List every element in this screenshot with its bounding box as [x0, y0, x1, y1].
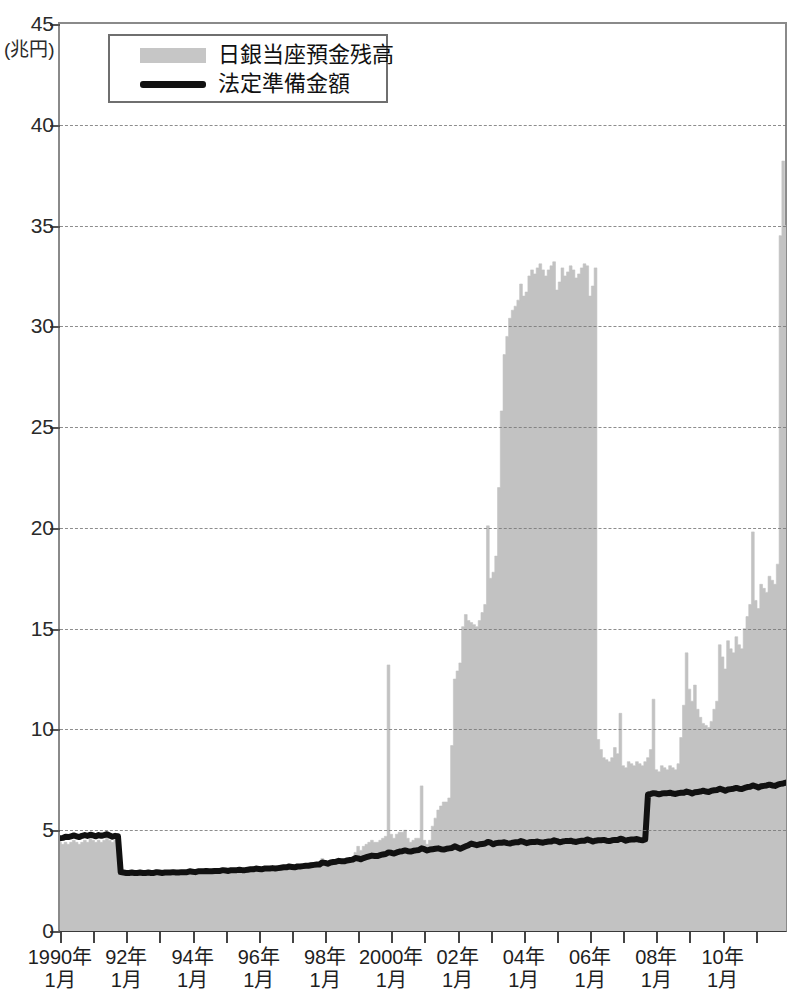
x-tick-mark [226, 932, 228, 943]
x-tick-label: 98年1月 [304, 946, 346, 992]
x-tick-label: 08年1月 [635, 946, 677, 992]
x-tick-mark [60, 932, 62, 943]
gridline [60, 125, 786, 126]
x-tick-mark [358, 932, 360, 943]
y-tick-label: 25 [8, 416, 54, 437]
chart-root: (兆円) 051015202530354045 1990年1月92年1月94年1… [0, 0, 792, 1005]
x-tick-mark [756, 932, 758, 943]
gridline [60, 729, 786, 730]
x-tick-mark [325, 932, 327, 943]
y-tick-label: 0 [8, 920, 54, 941]
legend-item-required-reserves: 法定準備金額 [120, 72, 350, 96]
gridline [60, 528, 786, 529]
gridline [60, 629, 786, 630]
legend-bar-swatch-icon [140, 48, 206, 63]
gridline [60, 427, 786, 428]
x-tick-mark [656, 932, 658, 943]
y-axis-unit-label: (兆円) [4, 34, 55, 61]
x-tick-mark [126, 932, 128, 943]
x-tick-label: 92年1月 [105, 946, 147, 992]
x-tick-label: 06年1月 [569, 946, 611, 992]
y-tick-label: 40 [8, 114, 54, 135]
gridline [60, 326, 786, 327]
x-tick-mark [458, 932, 460, 943]
x-tick-mark [424, 932, 426, 943]
x-tick-label: 02年1月 [436, 946, 478, 992]
x-tick-mark [259, 932, 261, 943]
series-line-svg [60, 24, 786, 931]
x-tick-label: 04年1月 [503, 946, 545, 992]
x-tick-mark [623, 932, 625, 943]
legend-item-deposits: 日銀当座預金残高 [120, 43, 394, 67]
y-tick-label: 20 [8, 517, 54, 538]
x-tick-label: 96年1月 [238, 946, 280, 992]
gridline [60, 226, 786, 227]
x-tick-mark [491, 932, 493, 943]
legend-line-swatch-icon [140, 81, 206, 88]
x-tick-mark [193, 932, 195, 943]
legend-label-required-reserves: 法定準備金額 [218, 72, 350, 96]
x-tick-label: 1990年1月 [28, 946, 93, 992]
x-tick-mark [557, 932, 559, 943]
x-tick-mark [159, 932, 161, 943]
x-tick-mark [391, 932, 393, 943]
x-tick-label: 10年1月 [701, 946, 743, 992]
y-tick-label: 15 [8, 618, 54, 639]
x-tick-mark [93, 932, 95, 943]
x-tick-mark [689, 932, 691, 943]
legend-label-deposits: 日銀当座預金残高 [218, 43, 394, 67]
x-tick-mark [524, 932, 526, 943]
y-tick-label: 5 [8, 819, 54, 840]
x-tick-label: 94年1月 [171, 946, 213, 992]
y-tick-label: 30 [8, 315, 54, 336]
y-tick-label: 10 [8, 718, 54, 739]
line-series-required-reserves [60, 783, 786, 873]
y-tick-label: 45 [8, 13, 54, 34]
x-tick-label: 2000年1月 [359, 946, 424, 992]
x-tick-mark [292, 932, 294, 943]
x-tick-mark [723, 932, 725, 943]
gridline [60, 830, 786, 831]
y-tick-label: 35 [8, 215, 54, 236]
figure-caption [8, 996, 308, 1005]
x-tick-mark [590, 932, 592, 943]
legend: 日銀当座預金残高 法定準備金額 [108, 34, 388, 103]
plot-area [60, 24, 786, 931]
